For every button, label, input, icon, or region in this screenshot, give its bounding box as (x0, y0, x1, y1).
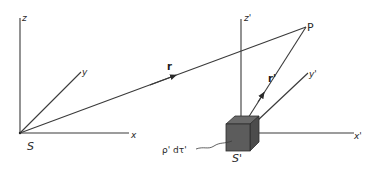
y-prime-axis (257, 73, 308, 121)
vector-r-prime-label: r' (268, 73, 276, 84)
point-p-label: P (307, 21, 314, 34)
y-prime-axis-label: y' (308, 69, 317, 79)
coordinate-frames-diagram: z y x S r z' y' x' r' P S' ρ' dτ' (0, 0, 377, 175)
origin-s-label: S (27, 140, 34, 153)
x-prime-axis-label: x' (353, 131, 362, 141)
x-axis-label: x (130, 130, 137, 140)
cube-front-face (226, 124, 250, 151)
z-prime-axis-label: z' (243, 13, 251, 23)
volume-element-cube (226, 116, 259, 151)
element-label: ρ' dτ' (162, 145, 187, 155)
frame-s: z y x S (19, 13, 137, 153)
y-axis (20, 72, 81, 133)
vector-r-label: r (167, 61, 172, 72)
origin-s-prime-label: S' (232, 152, 242, 165)
y-axis-label: y (81, 67, 88, 77)
vector-r-prime: r' (248, 27, 306, 118)
vector-r: r (20, 27, 306, 133)
z-axis-label: z (21, 13, 27, 23)
